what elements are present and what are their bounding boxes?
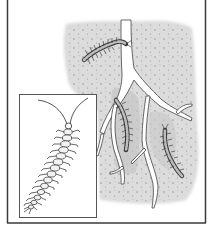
illustration-figure <box>0 0 213 232</box>
centipede-soil-illustration <box>0 0 213 232</box>
inset-box <box>20 95 97 218</box>
